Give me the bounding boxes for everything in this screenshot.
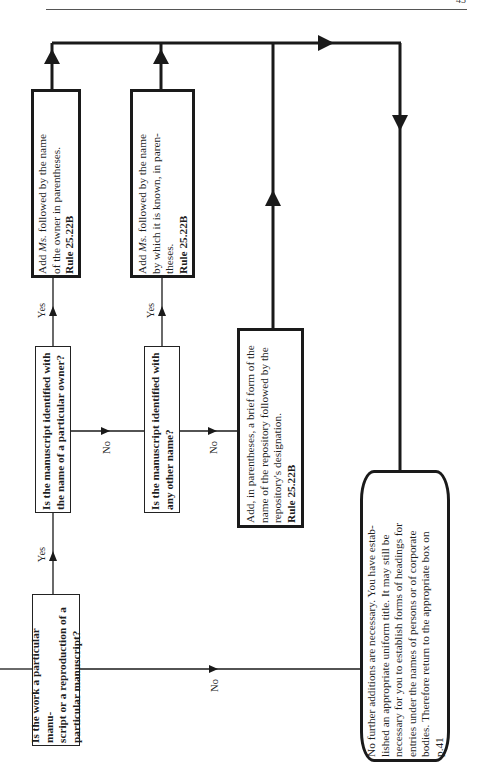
terminal-box-no-further-additions: No further additions are necessary. You …	[360, 470, 450, 762]
action-text: theses.	[163, 243, 175, 273]
terminal-text: entries under the names of persons or of…	[405, 531, 417, 757]
action-box-owner: Add Ms. followed by the name of the owne…	[31, 89, 81, 278]
question-box-other-name: Is the manuscript identified with any ot…	[144, 346, 180, 513]
action-text: repository's designation.	[271, 413, 283, 523]
no-label-q2: No	[101, 441, 112, 454]
question-text: any other name?	[162, 429, 174, 510]
yes-label-q3: Yes	[145, 303, 156, 318]
question-text: script or a reproduction of a	[56, 607, 68, 743]
question-text: Is the manuscript identified with	[40, 352, 52, 510]
yes-label-q1: Yes	[36, 547, 47, 562]
question-box-particular-manuscript: Is the work a particular manu- script or…	[32, 594, 80, 746]
action-box-repository: Add, in parentheses, a brief form of the…	[237, 328, 304, 528]
question-box-owner: Is the manuscript identified with the na…	[35, 346, 71, 513]
terminal-text: No further additions are necessary. You …	[365, 525, 377, 757]
terminal-text: lished an appropriate uniform title. It …	[378, 535, 390, 757]
ms-abbrev: Ms.	[136, 235, 148, 252]
action-text: followed by the name	[36, 134, 48, 235]
question-text: Is the manuscript identified with	[149, 352, 161, 510]
yes-label-q2: Yes	[36, 303, 47, 318]
action-text: of the owner in parentheses.	[49, 146, 61, 273]
rule-reference: Rule 25.22B	[63, 215, 75, 273]
arrow-right-icon	[318, 35, 334, 51]
ms-abbrev: Ms.	[36, 235, 48, 252]
action-text: name of the repository followed by the	[257, 347, 269, 523]
rule-reference: Rule 25.22B	[176, 215, 188, 273]
action-text: by which it is known, in paren-	[149, 133, 161, 274]
action-text: Add	[36, 251, 48, 273]
question-text: particular manuscript?	[70, 631, 82, 743]
no-label-q1: No	[209, 679, 220, 692]
terminal-text: bodies. Therefore return to the appropri…	[419, 531, 431, 757]
no-label-q3: No	[208, 441, 219, 454]
action-text: Add, in parentheses, a brief form of the	[244, 345, 256, 523]
action-text: Add	[136, 251, 148, 273]
terminal-text: necessary for you to establish forms of …	[392, 523, 404, 757]
question-text: the name of a particular owner?	[53, 354, 65, 509]
rule-reference: Rule 25.22B	[284, 465, 296, 523]
question-text: Is the work a particular manu-	[29, 628, 55, 743]
terminal-text: p.41	[432, 737, 444, 757]
action-box-other-name: Add Ms. followed by the name by which it…	[130, 89, 195, 278]
action-text: followed by the name	[136, 134, 148, 235]
